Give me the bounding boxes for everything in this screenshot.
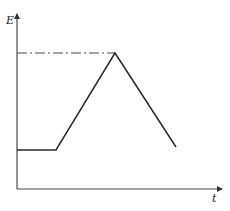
energy-curve (17, 53, 176, 150)
energy-time-diagram: E t (0, 0, 230, 211)
y-axis-label: E (5, 14, 14, 27)
x-axis-label: t (212, 192, 217, 205)
